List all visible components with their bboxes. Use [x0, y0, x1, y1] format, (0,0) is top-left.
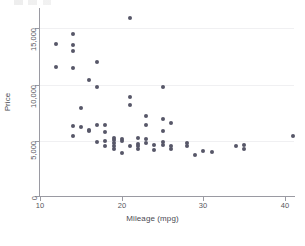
data-point — [95, 60, 99, 64]
x-axis-title: Mileage (mpg) — [0, 214, 305, 223]
gridline-15000 — [39, 28, 294, 29]
scatter-plot-figure: 15,000 10,000 5,000 0 10 20 30 40 Mileag… — [0, 0, 305, 246]
data-point — [136, 147, 140, 151]
data-point — [71, 124, 75, 128]
data-point — [112, 147, 116, 151]
data-point — [128, 103, 132, 107]
clipped-header-artifact — [14, 0, 60, 5]
data-point — [234, 144, 238, 148]
data-point — [120, 151, 124, 155]
data-point — [144, 123, 148, 127]
data-point — [136, 136, 140, 140]
data-point — [291, 134, 295, 138]
data-point — [71, 49, 75, 53]
data-point — [103, 144, 107, 148]
data-point — [95, 123, 99, 127]
data-point — [152, 143, 156, 147]
data-point — [128, 95, 132, 99]
data-point — [71, 134, 75, 138]
y-tick-label-5000: 5,000 — [30, 141, 39, 160]
data-point — [87, 78, 91, 82]
plot-area — [39, 8, 294, 196]
data-point — [95, 140, 99, 144]
data-point — [87, 129, 91, 133]
y-axis-line — [39, 8, 40, 196]
data-point — [120, 139, 124, 143]
x-tick-label-30: 30 — [199, 201, 207, 210]
data-point — [185, 144, 189, 148]
data-point — [103, 123, 107, 127]
y-axis-title: Price — [3, 93, 12, 112]
data-point — [161, 117, 165, 121]
data-point — [161, 85, 165, 89]
data-point — [71, 43, 75, 47]
data-point — [193, 153, 197, 157]
y-tick-label-15000: 15,000 — [30, 28, 39, 51]
x-tick-label-10: 10 — [36, 201, 44, 210]
data-point — [152, 148, 156, 152]
x-tick-label-40: 40 — [281, 201, 289, 210]
data-point — [128, 16, 132, 20]
data-point — [95, 85, 99, 89]
data-point — [103, 139, 107, 143]
data-point — [161, 143, 165, 147]
data-point — [103, 130, 107, 134]
data-point — [79, 106, 83, 110]
data-point — [201, 149, 205, 153]
data-point — [169, 147, 173, 151]
gridline-5000 — [39, 141, 294, 142]
data-point — [242, 143, 246, 147]
data-point — [71, 32, 75, 36]
data-point — [79, 125, 83, 129]
x-axis-line — [39, 196, 295, 197]
data-point — [144, 114, 148, 118]
y-tick-label-0: 0 — [30, 196, 39, 200]
data-point — [128, 144, 132, 148]
data-point — [54, 65, 58, 69]
y-tick-label-10000: 10,000 — [30, 85, 39, 108]
data-point — [144, 141, 148, 145]
data-point — [71, 66, 75, 70]
data-point — [210, 150, 214, 154]
x-tick-label-20: 20 — [118, 201, 126, 210]
data-point — [169, 121, 173, 125]
data-point — [54, 42, 58, 46]
gridline-10000 — [39, 85, 294, 86]
data-point — [242, 147, 246, 151]
data-point — [161, 129, 165, 133]
